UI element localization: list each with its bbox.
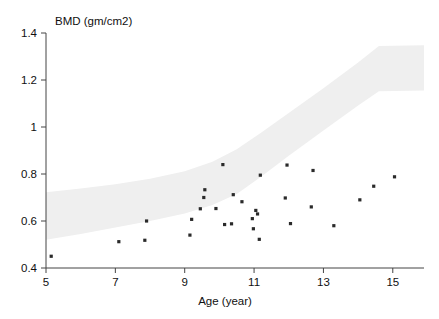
scatter-point — [252, 227, 255, 230]
scatter-point — [223, 223, 226, 226]
scatter-point — [199, 207, 202, 210]
x-tick-label: 7 — [112, 276, 118, 288]
scatter-point — [232, 193, 235, 196]
scatter-point — [310, 205, 313, 208]
scatter-point — [285, 163, 288, 166]
y-tick-label: 0.8 — [21, 168, 37, 180]
y-tick-label: 1.2 — [21, 74, 37, 86]
scatter-point — [240, 200, 243, 203]
x-tick-label: 13 — [317, 276, 330, 288]
chart-canvas: 0.40.60.811.21.4579111315BMD (gm/cm2)Age… — [0, 0, 439, 319]
scatter-point — [372, 185, 375, 188]
scatter-point — [145, 219, 148, 222]
scatter-point — [230, 222, 233, 225]
scatter-point — [202, 196, 205, 199]
scatter-point — [332, 224, 335, 227]
y-tick-label: 1 — [31, 121, 37, 133]
scatter-point — [188, 234, 191, 237]
scatter-point — [50, 255, 53, 258]
scatter-point — [393, 175, 396, 178]
scatter-point — [251, 217, 254, 220]
scatter-point — [311, 169, 314, 172]
scatter-point — [203, 188, 206, 191]
scatter-point — [254, 209, 257, 212]
scatter-point — [221, 163, 224, 166]
scatter-point — [259, 174, 262, 177]
x-tick-label: 11 — [248, 276, 260, 288]
x-tick-label: 5 — [43, 276, 49, 288]
x-tick-label: 15 — [386, 276, 399, 288]
scatter-point — [284, 196, 287, 199]
scatter-point — [258, 238, 261, 241]
x-axis-title: Age (year) — [198, 295, 252, 307]
y-tick-label: 1.4 — [21, 27, 38, 39]
scatter-point — [358, 198, 361, 201]
scatter-point — [117, 240, 120, 243]
scatter-point — [214, 207, 217, 210]
x-tick-label: 9 — [182, 276, 188, 288]
y-tick-label: 0.4 — [21, 262, 38, 274]
y-tick-label: 0.6 — [21, 215, 37, 227]
scatter-point — [289, 222, 292, 225]
scatter-point — [190, 218, 193, 221]
scatter-point — [143, 239, 146, 242]
scatter-point — [256, 212, 259, 215]
bmd-age-scatter-chart: 0.40.60.811.21.4579111315BMD (gm/cm2)Age… — [0, 0, 439, 319]
y-axis-title: BMD (gm/cm2) — [55, 15, 132, 27]
